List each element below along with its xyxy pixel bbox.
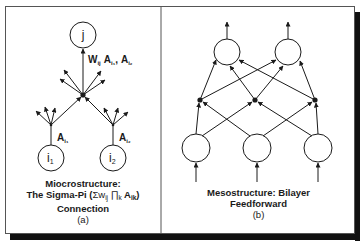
caption-a-label: (a) (5, 214, 161, 225)
caption-b-subtitle: Feedforward (162, 198, 355, 209)
caption-b-label: (b) (162, 209, 355, 220)
branch-dot-right (112, 124, 115, 127)
weight-label: WijAi₁,Ai₂ (88, 54, 133, 66)
caption-a-connection: Connection (5, 203, 161, 214)
hidden-junction-2 (252, 97, 257, 102)
frame-shadow-bottom (10, 234, 360, 240)
hub-junction-dot (80, 92, 85, 97)
caption-a-formula-line: The Sigma-Pi (Σwij ∏k Aik) (5, 189, 161, 203)
hidden-junction-1 (197, 97, 202, 102)
frame-shadow-right (355, 12, 360, 241)
node-j-label: j (81, 28, 85, 42)
caption-panel-a: Miocrostructure: The Sigma-Pi (Σwij ∏k A… (5, 178, 161, 225)
caption-panel-b: Mesostructure: Bilayer Feedforward (b) (162, 187, 355, 220)
caption-a-title: Miocrostructure: (5, 178, 161, 189)
caption-b-title: Mesostructure: Bilayer (162, 187, 355, 198)
branch-dot-left (50, 124, 53, 127)
hidden-junction-3 (312, 97, 317, 102)
